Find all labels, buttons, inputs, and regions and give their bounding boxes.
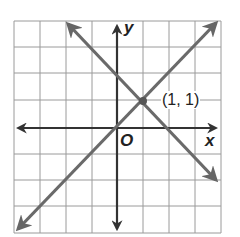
intersection-point: [139, 97, 147, 105]
x-axis-label: x: [205, 131, 214, 151]
coordinate-graph: [0, 0, 240, 237]
y-axis-label: y: [124, 18, 133, 38]
point-label: (1, 1): [161, 91, 200, 109]
origin-label: O: [120, 131, 133, 151]
